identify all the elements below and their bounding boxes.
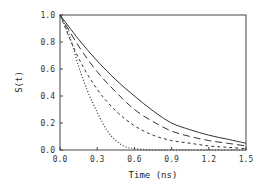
x-axis-label: Time (ns) [129, 170, 178, 180]
series-solid [60, 15, 246, 143]
y-tick-label: 0.4 [41, 92, 56, 101]
x-tick-label: 0.6 [127, 155, 142, 164]
x-tick-label: 1.2 [202, 155, 217, 164]
series-short-dash [60, 15, 246, 149]
plot-border [60, 15, 246, 150]
series-long-dash [60, 15, 246, 146]
x-tick-label: 1.5 [239, 155, 254, 164]
x-tick-label: 0.0 [53, 155, 68, 164]
y-tick-label: 0.6 [41, 65, 56, 74]
y-tick-label: 1.0 [41, 11, 56, 20]
series-dotted [60, 15, 246, 150]
y-axis-label: S(t) [14, 71, 24, 93]
y-tick-label: 0.2 [41, 119, 56, 128]
y-tick-label: 0.0 [41, 146, 56, 155]
x-tick-label: 0.9 [164, 155, 179, 164]
data-series [60, 15, 246, 150]
plot-frame [60, 15, 246, 150]
y-tick-label: 0.8 [41, 38, 56, 47]
decay-chart: 0.00.20.40.60.81.0 0.00.30.60.91.21.5 Ti… [0, 0, 264, 191]
x-tick-label: 0.3 [90, 155, 105, 164]
